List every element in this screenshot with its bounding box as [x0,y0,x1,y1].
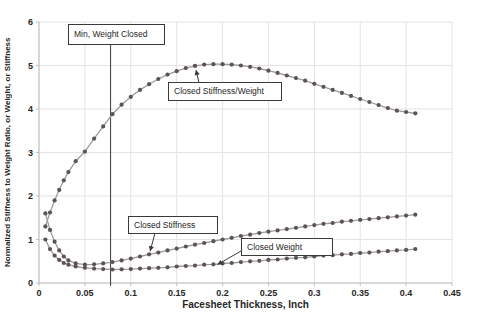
data-point-marker [312,82,316,86]
data-point-marker [321,85,325,89]
data-point-marker [101,124,105,128]
data-point-marker [66,258,70,262]
data-point-marker [340,91,344,95]
data-point-marker [57,188,61,192]
data-point-marker [211,262,215,266]
data-point-marker [294,256,298,260]
data-point-marker [413,213,417,217]
y-tick-label: 1 [28,235,33,245]
data-point-marker [349,252,353,256]
data-point-marker [340,220,344,224]
data-point-marker [358,218,362,222]
data-point-marker [74,264,78,268]
data-point-marker [202,241,206,245]
data-point-marker [221,237,225,241]
data-point-marker [156,77,160,81]
data-point-marker [266,69,270,73]
x-tick-label: 0.2 [216,288,229,298]
data-point-marker [48,247,52,251]
x-tick-label: 0.4 [400,288,413,298]
x-tick-label: 0.1 [125,288,138,298]
data-point-marker [230,236,234,240]
data-point-marker [367,217,371,221]
data-point-marker [377,250,381,254]
data-point-marker [92,267,96,271]
data-point-marker [239,260,243,264]
data-point-marker [230,63,234,67]
data-point-marker [266,258,270,262]
data-point-marker [230,261,234,265]
data-point-marker [312,223,316,227]
data-point-marker [303,79,307,83]
data-point-marker [257,231,261,235]
data-point-marker [57,258,61,262]
data-point-marker [349,94,353,98]
data-point-marker [211,239,215,243]
data-point-marker [257,259,261,263]
x-tick-label: 0 [36,288,41,298]
data-point-marker [395,248,399,252]
annotation-min-weight-closed: Min, Weight Closed [68,24,165,45]
y-tick-label: 3 [28,148,33,158]
data-point-marker [156,251,160,255]
data-point-marker [386,106,390,110]
data-point-marker [211,62,215,66]
data-point-marker [276,71,280,75]
x-axis-title: Facesheet Thickness, Inch [39,299,452,310]
chart-area: 00.050.10.150.20.250.30.350.40.450123456… [0,0,483,319]
data-point-marker [83,266,87,270]
data-point-marker [367,100,371,104]
data-point-marker [413,111,417,115]
data-point-marker [377,216,381,220]
data-point-marker [62,254,66,258]
data-point-marker [184,244,188,248]
data-point-marker [303,224,307,228]
data-point-marker [367,251,371,255]
y-tick-label: 2 [28,191,33,201]
data-point-marker [239,63,243,67]
data-point-marker [175,69,179,73]
annotation-closed-weight: Closed Weight [241,238,333,256]
annotation-arrowhead [149,246,154,252]
data-point-marker [184,264,188,268]
data-point-marker [276,257,280,261]
data-point-marker [165,73,169,77]
data-point-marker [43,211,47,215]
data-point-marker [147,82,151,86]
data-point-marker [193,64,197,68]
data-point-marker [404,110,408,114]
data-point-marker [110,267,114,271]
data-point-marker [53,198,57,202]
data-point-marker [53,240,57,244]
y-tick-label: 4 [28,104,33,114]
data-point-marker [48,210,52,214]
data-point-marker [386,249,390,253]
data-point-marker [62,261,66,265]
data-point-marker [377,103,381,107]
data-point-marker [395,109,399,113]
data-point-marker [43,237,47,241]
data-point-marker [386,215,390,219]
data-point-marker [285,257,289,261]
x-tick-label: 0.35 [351,288,369,298]
data-point-marker [248,65,252,69]
x-tick-label: 0.15 [168,288,186,298]
annotation-closed-stiffness: Closed Stiffness [128,216,218,234]
data-point-marker [413,247,417,251]
x-tick-label: 0.45 [443,288,461,298]
data-point-marker [120,267,124,271]
x-tick-label: 0.25 [260,288,278,298]
data-point-marker [147,252,151,256]
data-point-marker [165,248,169,252]
y-axis-title: Normalized Stiffness to Weight Ratio, or… [1,22,14,283]
data-point-marker [193,243,197,247]
data-point-marker [66,170,70,174]
x-tick-label: 0.3 [308,288,321,298]
y-tick-label: 6 [28,17,33,27]
data-point-marker [321,222,325,226]
data-point-marker [285,227,289,231]
annotation-arrowhead [195,70,200,76]
data-point-marker [294,226,298,230]
data-point-marker [331,88,335,92]
data-point-marker [331,221,335,225]
